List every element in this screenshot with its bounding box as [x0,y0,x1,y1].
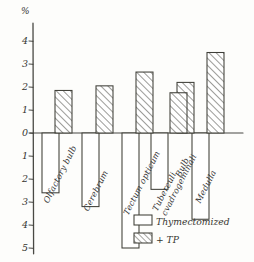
bar-chart: % 4321012345 Olfactory bulbCerebrumTectu… [0,0,254,262]
y-tick-0-4: 0 [14,127,28,138]
y-tick-4-8: 4 [14,219,28,230]
y-tick-2-6: 2 [14,173,28,184]
legend-label-tp: + TP [156,234,179,245]
y-tick-3-1: 3 [14,58,28,69]
y-tick-1-3: 1 [14,104,28,115]
legend-label-thymectomized: Thymectomized [156,216,230,227]
y-tick-2-2: 2 [14,81,28,92]
y-tick-5-9: 5 [14,242,28,253]
y-tick-3-7: 3 [14,196,28,207]
y-tick-4-0: 4 [14,35,28,46]
y-tick-1-5: 1 [14,150,28,161]
